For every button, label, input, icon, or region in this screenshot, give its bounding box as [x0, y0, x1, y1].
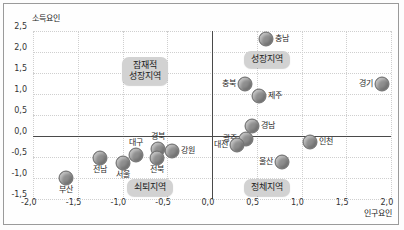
x-tick-label: 2,0: [381, 199, 394, 207]
x-tick-label: 0,0: [202, 199, 215, 207]
x-axis-title: 인구요인: [364, 207, 392, 218]
zone-label-line: 정체지역: [251, 182, 283, 193]
data-point-label: 경북: [151, 133, 165, 141]
data-point[interactable]: [230, 138, 245, 153]
data-point[interactable]: [238, 76, 253, 91]
axis-horizontal-zero: [33, 136, 391, 137]
x-tick-label: -1,5: [66, 199, 82, 207]
data-point-label: 경기: [359, 80, 373, 88]
plot-area: 잠재적성장지역성장지역쇠퇴지역정체지역충남경기충북제주경남광주대전인천울산강원경…: [33, 31, 391, 199]
data-point[interactable]: [149, 150, 164, 165]
data-point-label: 충남: [275, 35, 289, 43]
zone-label-stagnation: 정체지역: [244, 179, 290, 196]
y-tick-label: -1,0: [4, 170, 27, 178]
data-point[interactable]: [251, 89, 266, 104]
data-point[interactable]: [258, 32, 273, 47]
y-tick-label: 1,5: [4, 65, 27, 73]
y-tick-label: 2,5: [4, 23, 27, 31]
zone-label-line: 쇠퇴지역: [134, 182, 166, 193]
data-point[interactable]: [274, 155, 289, 170]
x-tick-label: -2,0: [21, 199, 37, 207]
data-point-label: 인천: [319, 138, 333, 146]
x-tick-label: -0,5: [155, 199, 171, 207]
zone-label-decline: 쇠퇴지역: [127, 179, 173, 196]
data-point[interactable]: [375, 76, 390, 91]
x-tick-label: -1,0: [111, 199, 127, 207]
data-point[interactable]: [59, 171, 74, 186]
data-point[interactable]: [128, 147, 143, 162]
data-point-label: 대전: [214, 141, 228, 149]
zone-label-line: 성장지역: [129, 71, 161, 82]
data-point-label: 대구: [129, 139, 143, 147]
data-point-label: 제주: [268, 92, 282, 100]
y-tick-label: 1,0: [4, 86, 27, 94]
chart-frame: 소득요인 인구요인 잠재적성장지역성장지역쇠퇴지역정체지역충남경기충북제주경남광…: [3, 3, 399, 225]
chart-screenshot: 소득요인 인구요인 잠재적성장지역성장지역쇠퇴지역정체지역충남경기충북제주경남광…: [0, 0, 404, 230]
zone-label-potential-growth: 잠재적성장지역: [122, 57, 168, 85]
x-tick-label: 0,5: [246, 199, 259, 207]
data-point-label: 강원: [181, 147, 195, 155]
axis-vertical-zero: [212, 31, 213, 199]
y-tick-label: -0,5: [4, 149, 27, 157]
data-point-label: 경남: [261, 122, 275, 130]
data-point[interactable]: [115, 156, 130, 171]
data-point-label: 울산: [259, 158, 273, 166]
data-point-label: 전북: [150, 166, 164, 174]
y-axis-title: 소득요인: [32, 12, 60, 23]
data-point-label: 서울: [116, 171, 130, 179]
data-point-label: 전남: [93, 166, 107, 174]
zone-label-growth: 성장지역: [244, 51, 290, 68]
y-tick-label: 0,5: [4, 107, 27, 115]
y-tick-label: 0,0: [4, 128, 27, 136]
zone-label-line: 성장지역: [251, 54, 283, 65]
data-point-label: 부산: [59, 186, 73, 194]
x-tick-label: 1,5: [336, 199, 349, 207]
data-point[interactable]: [164, 143, 179, 158]
data-point[interactable]: [93, 150, 108, 165]
grid-line-vertical: [391, 31, 392, 199]
data-point-label: 충북: [222, 80, 236, 88]
y-tick-label: 2,0: [4, 44, 27, 52]
x-tick-label: 1,0: [291, 199, 304, 207]
zone-label-line: 잠재적: [129, 60, 161, 71]
data-point[interactable]: [303, 135, 318, 150]
